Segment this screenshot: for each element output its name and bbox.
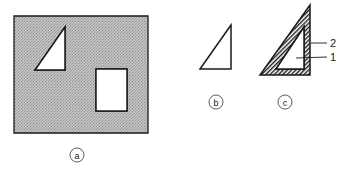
diagram-canvas: a b 2 1 c	[0, 0, 353, 172]
svg-text:a: a	[74, 151, 79, 161]
caption-c: c	[278, 95, 292, 109]
panel-a: a	[14, 16, 148, 162]
stippled-plate	[14, 16, 148, 133]
callout-label-2: 2	[330, 37, 336, 49]
panel-b: b	[200, 25, 231, 109]
svg-text:c: c	[283, 98, 288, 108]
triangle-outline	[200, 25, 231, 69]
rectangular-hole	[96, 69, 127, 111]
svg-text:b: b	[213, 98, 218, 108]
callout-label-1: 1	[330, 51, 336, 63]
panel-c: 2 1 c	[260, 5, 336, 109]
caption-b: b	[209, 95, 223, 109]
caption-a: a	[70, 148, 84, 162]
